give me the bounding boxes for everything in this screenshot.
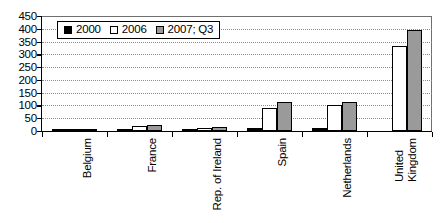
- y-axis-tick-labels: 450400350300250200150100500: [0, 11, 40, 135]
- x-category-label-line: Kingdom: [406, 138, 419, 182]
- y-tick-mark: [37, 67, 42, 68]
- y-tick-mark: [37, 42, 42, 43]
- chart-legend: 200020062007; Q3: [57, 21, 220, 39]
- bar: [327, 105, 342, 131]
- legend-entry: 2006: [110, 24, 147, 35]
- bar-group: [247, 16, 292, 131]
- x-category-label: Spain: [276, 138, 289, 166]
- x-tick-mark: [432, 132, 433, 137]
- y-tick-mark: [37, 29, 42, 30]
- x-category-label: Netherlands: [341, 138, 354, 198]
- legend-entry: 2007; Q3: [156, 24, 214, 35]
- y-tick-mark: [37, 118, 42, 119]
- bar: [277, 102, 292, 131]
- y-tick-label: 200: [18, 74, 37, 85]
- y-tick-mark: [37, 80, 42, 81]
- legend-label: 2000: [76, 24, 101, 35]
- y-tick-mark: [37, 54, 42, 55]
- bar: [262, 108, 277, 132]
- bar: [342, 102, 357, 131]
- y-tick-label: 450: [18, 11, 37, 22]
- x-tick-mark: [367, 132, 368, 137]
- y-tick-mark: [37, 93, 42, 94]
- legend-label: 2006: [122, 24, 147, 35]
- y-tick-label: 350: [18, 36, 37, 47]
- bar-group: [312, 16, 357, 131]
- white-square-swatch: [110, 26, 118, 34]
- y-tick-label: 400: [18, 23, 37, 34]
- legend-label: 2007; Q3: [168, 24, 214, 35]
- black-square-swatch: [64, 26, 72, 34]
- x-category-label: Rep. of Ireland: [211, 138, 224, 210]
- x-tick-mark: [237, 132, 238, 137]
- x-axis-category-labels: BelgiumFranceRep. of IrelandSpainNetherl…: [42, 138, 432, 223]
- x-category-label: France: [146, 138, 159, 173]
- y-tick-label: 100: [18, 100, 37, 111]
- gray-square-swatch: [156, 26, 164, 34]
- y-tick-label: 150: [18, 87, 37, 98]
- bar: [392, 46, 407, 131]
- y-tick-mark: [37, 16, 42, 17]
- y-tick-label: 300: [18, 49, 37, 60]
- y-tick-label: 250: [18, 62, 37, 73]
- bar-chart: 450400350300250200150100500 BelgiumFranc…: [0, 0, 442, 223]
- x-tick-mark: [107, 132, 108, 137]
- x-category-label-line: United: [393, 138, 406, 182]
- x-tick-mark: [172, 132, 173, 137]
- x-category-label: UnitedKingdom: [393, 138, 418, 182]
- x-tick-mark: [302, 132, 303, 137]
- x-category-label: Belgium: [81, 138, 94, 178]
- x-tick-mark: [42, 132, 43, 137]
- legend-entry: 2000: [64, 24, 101, 35]
- bar: [407, 30, 422, 131]
- y-tick-mark: [37, 105, 42, 106]
- y-tick-label: 50: [25, 113, 37, 124]
- bar-group: [377, 16, 422, 131]
